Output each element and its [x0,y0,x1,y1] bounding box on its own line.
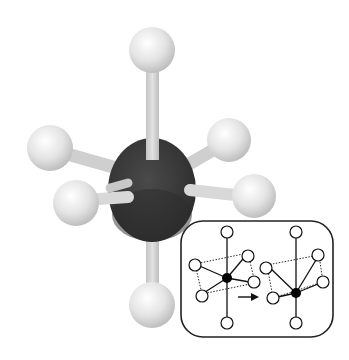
ligand-atom-top [129,27,175,73]
octahedral-molecule-diagram [0,0,349,360]
ligand-atom-upper-right [207,118,251,162]
ligand-atom-lower-right [232,174,276,218]
ligand-atom-lower-left [53,180,99,226]
ligand-atom-upper-left [27,125,73,171]
ligand-atom-bottom [129,282,175,328]
inset-distortion-diagram [181,221,333,337]
bond-top [146,68,159,160]
molecule-figure [0,0,349,360]
